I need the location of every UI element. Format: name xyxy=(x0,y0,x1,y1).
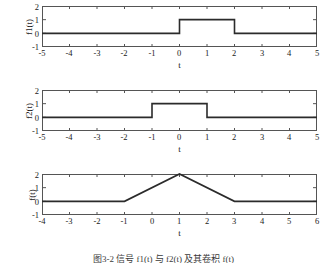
y-axis-label-f1: f1(t) xyxy=(0,8,37,46)
x-tick-label: 2 xyxy=(226,49,242,58)
x-axis-label-f: t xyxy=(42,228,317,238)
figure-container: f1(t) 2 1 0 -1 -5 -4 -3 -2 -1 0 1 2 3 4 … xyxy=(0,0,327,263)
x-tick-label: 2 xyxy=(199,217,215,226)
x-tick-label: 1 xyxy=(199,49,215,58)
x-tick-label: 1 xyxy=(199,133,215,142)
plot-f1: f1(t) 2 1 0 -1 -5 -4 -3 -2 -1 0 1 2 3 4 … xyxy=(0,0,327,84)
y-tick-label: 1 xyxy=(25,16,39,25)
x-tick-label: 6 xyxy=(309,217,325,226)
x-tick-label: -3 xyxy=(61,217,77,226)
x-tick-label: -2 xyxy=(116,49,132,58)
plot-f: f(t) 2 1 0 -1 -4 -3 -2 -1 0 1 2 3 4 5 6 xyxy=(0,168,327,252)
x-tick-label: -3 xyxy=(89,49,105,58)
x-tick-label: -1 xyxy=(116,217,132,226)
signal-trace-f2 xyxy=(42,90,317,131)
x-tick-label: -1 xyxy=(144,49,160,58)
x-axis-label-f2: t xyxy=(42,144,317,154)
x-tick-label: 0 xyxy=(144,217,160,226)
x-tick-label: 5 xyxy=(281,217,297,226)
x-tick-label: -4 xyxy=(61,49,77,58)
x-tick-label: 4 xyxy=(281,133,297,142)
x-tick-label: -5 xyxy=(34,49,50,58)
y-axis-label-f2: f2(t) xyxy=(0,92,37,130)
x-tick-label: 5 xyxy=(309,133,325,142)
x-tick-label: 4 xyxy=(281,49,297,58)
signal-trace-f1 xyxy=(42,6,317,47)
x-tick-label: 1 xyxy=(171,217,187,226)
y-axis-label-f: f(t) xyxy=(0,176,37,214)
x-tick-label: 3 xyxy=(254,133,270,142)
x-tick-label: 3 xyxy=(254,49,270,58)
y-tick-label: 2 xyxy=(25,3,39,12)
y-tick-label: 0 xyxy=(25,30,39,39)
plot-f2: f2(t) 2 1 0 -1 -5 -4 -3 -2 -1 0 1 2 3 4 … xyxy=(0,84,327,168)
x-tick-label: -5 xyxy=(34,133,50,142)
signal-trace-f xyxy=(42,174,317,215)
figure-caption: 图3-2 信号 f1(t) 与 f2(t) 及其卷积 f(t) xyxy=(0,252,327,263)
x-tick-label: -4 xyxy=(61,133,77,142)
x-axis-label-f1: t xyxy=(42,60,317,70)
x-tick-label: -3 xyxy=(89,133,105,142)
x-tick-label: 2 xyxy=(226,133,242,142)
y-tick-label: 0 xyxy=(25,198,39,207)
x-tick-label: 0 xyxy=(171,49,187,58)
x-tick-label: -2 xyxy=(89,217,105,226)
x-tick-label: -1 xyxy=(144,133,160,142)
x-tick-label: -2 xyxy=(116,133,132,142)
y-tick-label: 2 xyxy=(25,171,39,180)
y-tick-label: 2 xyxy=(25,87,39,96)
x-tick-label: 4 xyxy=(254,217,270,226)
y-tick-label: 1 xyxy=(25,100,39,109)
y-tick-label: 1 xyxy=(25,184,39,193)
x-tick-label: -4 xyxy=(34,217,50,226)
x-tick-label: 3 xyxy=(226,217,242,226)
y-tick-label: 0 xyxy=(25,114,39,123)
x-tick-label: 0 xyxy=(171,133,187,142)
x-tick-label: 5 xyxy=(309,49,325,58)
